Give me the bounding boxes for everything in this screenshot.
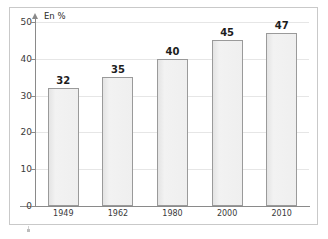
x-axis-tick-label: 2000 [205,209,249,218]
x-axis-tick-label: 2010 [260,209,304,218]
y-axis-tick-mark [31,132,35,133]
y-axis-tick-mark [31,22,35,23]
bar[interactable] [157,59,188,206]
y-axis-tick-mark [31,169,35,170]
bar-value-label: 32 [43,75,83,86]
bar[interactable] [48,88,79,206]
bar-value-label: 47 [262,20,302,31]
y-axis-tick-label: 10 [10,164,32,174]
bar-value-label: 45 [207,27,247,38]
y-axis-tick-label: 0 [10,201,32,211]
chart-figure: En % 01020304050 19491962198020002010 32… [0,0,328,239]
bar-value-label: 35 [98,64,138,75]
y-axis-tick-label: 20 [10,127,32,137]
y-axis-tick-mark [31,96,35,97]
page-marker-dot [27,229,30,232]
x-axis-tick-label: 1962 [96,209,140,218]
y-axis-tick-mark [31,59,35,60]
y-axis-tick-mark [31,206,35,207]
x-axis-line [20,206,310,207]
y-axis-tick-label: 30 [10,91,32,101]
bar[interactable] [102,77,133,206]
y-axis-tick-label: 50 [10,17,32,27]
y-axis-title: En % [44,11,66,21]
bar-value-label: 40 [153,46,193,57]
y-axis-tick-label: 40 [10,54,32,64]
bar[interactable] [266,33,297,206]
x-axis-tick-label: 1949 [41,209,85,218]
x-axis-tick-label: 1980 [151,209,195,218]
bar[interactable] [212,40,243,206]
